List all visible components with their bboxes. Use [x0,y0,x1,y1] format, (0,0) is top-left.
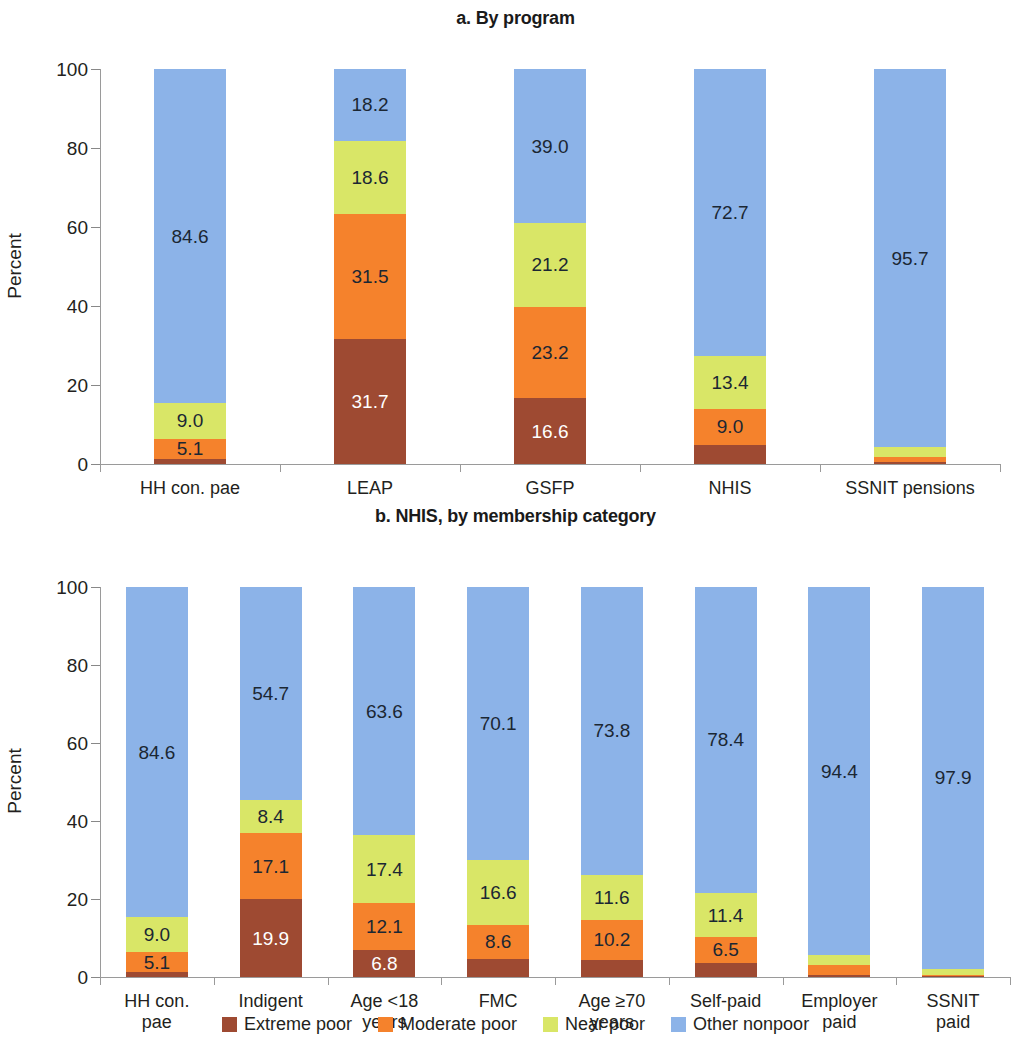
bar-segment: 84.6 [126,587,188,917]
bar-value-label: 11.4 [708,906,744,925]
y-axis-tick-mark [91,69,100,70]
y-axis-tick-label: 20 [32,376,88,395]
bar-value-label: 73.8 [593,721,630,740]
bar-segment [874,447,946,457]
x-axis-category-label: GSFP [460,478,640,499]
bar-segment: 9.0 [154,403,226,439]
x-axis-category-label: Indigent [214,991,328,1012]
x-axis-category-label: LEAP [280,478,460,499]
legend-item: Near poor [543,1014,645,1035]
legend-swatch-icon [222,1017,237,1032]
bar-segment: 54.7 [240,587,302,800]
bar-segment: 31.7 [334,339,406,464]
bar-value-label: 72.7 [712,203,749,222]
y-axis-tick-label: 100 [32,578,88,597]
x-axis-category-label: Self-paid [669,991,783,1012]
y-axis-tick-mark [91,743,100,744]
bar-segment: 9.0 [694,409,766,445]
bar-segment: 17.4 [353,835,415,903]
bar-segment: 23.2 [514,307,586,399]
y-axis-tick-mark [91,148,100,149]
bar-value-label: 21.2 [532,255,569,274]
bar-segment: 21.2 [514,223,586,307]
bar-value-label: 9.0 [717,417,743,436]
stacked-bar: 19.917.18.454.7 [240,587,302,977]
y-axis-tick-mark [91,977,100,978]
legend-item: Moderate poor [378,1014,517,1035]
chart-panel-b: b. NHIS, by membership category Percent0… [0,500,1031,1010]
bar-segment: 18.2 [334,69,406,141]
stacked-bar: 10.211.673.8 [581,587,643,977]
bar-value-label: 5.1 [144,953,170,972]
bar-value-label: 19.9 [252,929,289,948]
bar-value-label: 13.4 [712,373,749,392]
bar-value-label: 84.6 [138,743,175,762]
bar-value-label: 6.8 [371,954,397,973]
bar-segment: 8.6 [467,925,529,959]
bar-segment [581,960,643,977]
bar-segment: 63.6 [353,587,415,835]
bar-segment: 70.1 [467,587,529,860]
stacked-bar: 31.731.518.618.2 [334,69,406,464]
x-axis-tick-mark [669,977,670,985]
legend-label: Other nonpoor [693,1014,809,1035]
bar-segment: 18.6 [334,141,406,214]
bar-value-label: 18.2 [352,95,389,114]
bar-segment [808,965,870,975]
stacked-bar: 95.7 [874,69,946,464]
bar-value-label: 84.6 [172,227,209,246]
legend-label: Near poor [565,1014,645,1035]
x-axis-tick-mark [100,977,101,985]
stacked-bar: 5.19.084.6 [126,587,188,977]
legend-label: Extreme poor [244,1014,352,1035]
bar-segment: 9.0 [126,917,188,952]
bar-segment [922,975,984,976]
bar-segment [874,462,946,464]
x-axis-tick-mark [820,464,821,472]
bar-value-label: 9.0 [177,411,203,430]
stacked-bar: 5.19.084.6 [154,69,226,464]
bar-segment: 11.6 [581,875,643,920]
bar-value-label: 9.0 [144,925,170,944]
x-axis-line [100,464,1000,465]
x-axis-tick-mark [640,464,641,472]
bar-segment: 78.4 [695,587,757,893]
bar-value-label: 5.1 [177,439,203,458]
bar-segment: 11.4 [695,893,757,937]
bar-value-label: 95.7 [892,249,929,268]
bar-value-label: 70.1 [480,714,517,733]
stacked-bar: 8.616.670.1 [467,587,529,977]
bar-value-label: 31.7 [352,392,389,411]
y-axis-tick-label: 0 [32,455,88,474]
bar-segment [808,955,870,965]
bar-segment: 19.9 [240,899,302,977]
y-axis-tick-mark [91,821,100,822]
stacked-bar: 6.812.117.463.6 [353,587,415,977]
y-axis-tick-label: 80 [32,139,88,158]
bar-value-label: 31.5 [352,267,389,286]
bar-value-label: 8.4 [257,807,283,826]
y-axis-title: Percent [4,748,26,813]
stacked-bar: 16.623.221.239.0 [514,69,586,464]
bar-segment [154,459,226,464]
bar-segment [874,457,946,462]
bar-segment: 73.8 [581,587,643,875]
bar-value-label: 11.6 [594,888,630,907]
y-axis-tick-label: 80 [32,656,88,675]
bar-value-label: 63.6 [366,702,403,721]
bar-value-label: 94.4 [821,762,858,781]
bar-segment: 97.9 [922,587,984,969]
bar-segment [695,963,757,977]
legend-swatch-icon [543,1017,558,1032]
bar-segment: 95.7 [874,69,946,447]
x-axis-tick-mark [1010,977,1011,985]
x-axis-tick-mark [555,977,556,985]
x-axis-tick-mark [280,464,281,472]
bar-segment: 16.6 [467,860,529,925]
bar-value-label: 78.4 [707,730,744,749]
bar-value-label: 16.6 [480,883,517,902]
bar-segment [922,976,984,977]
x-axis-tick-mark [100,464,101,472]
y-axis-tick-mark [91,385,100,386]
bar-value-label: 54.7 [252,684,289,703]
